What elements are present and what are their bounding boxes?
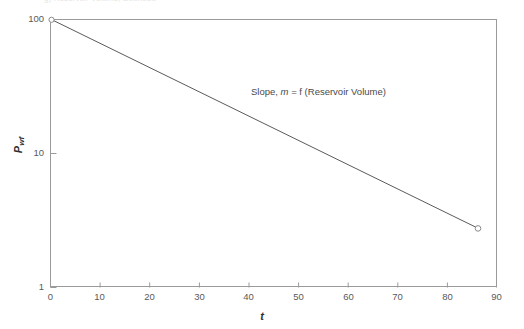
x-tick-label-10: 10: [85, 291, 114, 302]
x-tick-label-20: 20: [135, 291, 164, 302]
slope-annotation-suffix: = f (Reservoir Volume): [289, 86, 386, 97]
slope-annotation: Slope, m = f (Reservoir Volume): [251, 86, 386, 97]
slope-annotation-symbol: m: [281, 86, 289, 97]
x-tick-label-0: 0: [36, 291, 65, 302]
x-tick-label-90: 90: [482, 291, 511, 302]
data-point-marker-start: [49, 17, 54, 22]
plot-frame: [51, 20, 497, 287]
x-tick-label-80: 80: [433, 291, 462, 302]
figure-container: g) Reservoir Volume, Bounded: [0, 0, 524, 329]
x-axis-title: t: [0, 310, 524, 322]
x-tick-label-70: 70: [383, 291, 412, 302]
y-axis-ticks: [51, 20, 57, 288]
x-tick-label-50: 50: [284, 291, 313, 302]
data-point-marker-end: [475, 226, 481, 232]
x-tick-label-30: 30: [185, 291, 214, 302]
y-axis-title: Pwf: [3, 131, 33, 159]
y-tick-label-100: 100: [8, 13, 44, 24]
x-tick-label-60: 60: [334, 291, 363, 302]
semilog-plot: [0, 0, 524, 329]
x-tick-label-40: 40: [234, 291, 263, 302]
y-axis-title-base: P: [12, 146, 24, 153]
y-axis-title-subscript: wf: [17, 137, 26, 146]
slope-annotation-prefix: Slope,: [251, 86, 281, 97]
data-line-pwf: [52, 20, 478, 228]
